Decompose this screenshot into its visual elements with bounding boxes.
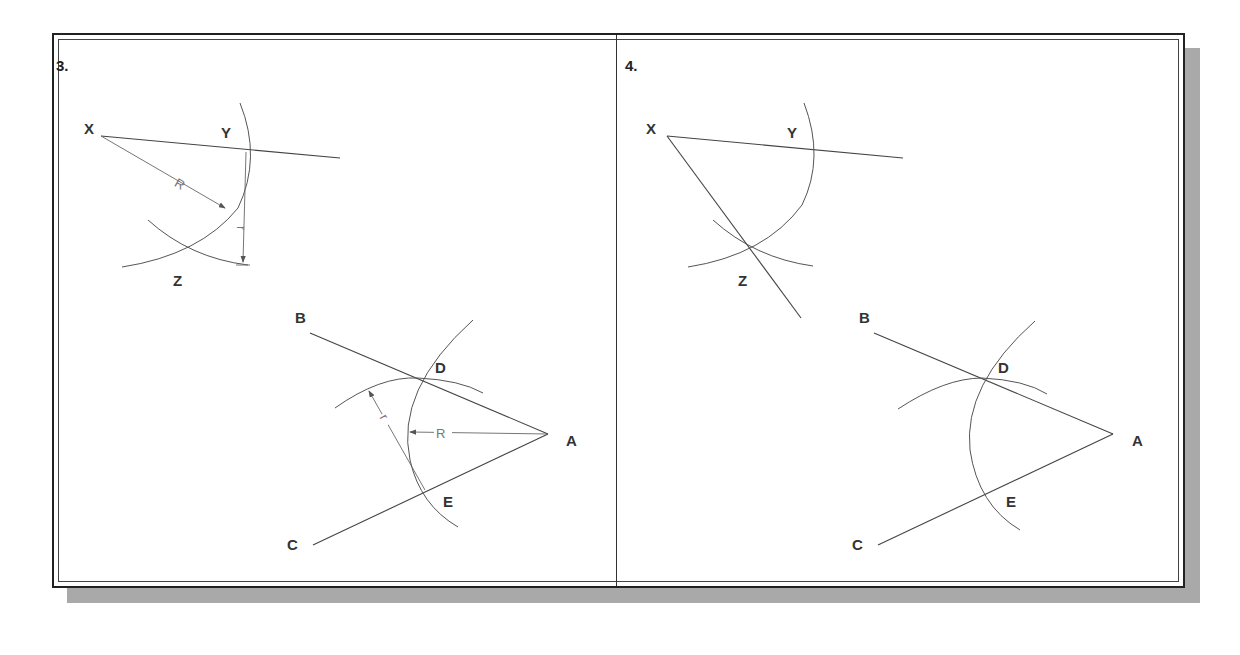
dimension-label-r: R bbox=[172, 175, 188, 193]
arc-radius-r-from-a bbox=[969, 321, 1035, 530]
point-y: Y bbox=[221, 124, 231, 141]
point-e: E bbox=[1006, 493, 1016, 510]
point-y: Y bbox=[787, 124, 797, 141]
dimension-r-arrow bbox=[101, 136, 225, 208]
point-x: X bbox=[84, 120, 94, 137]
line-xy bbox=[667, 136, 903, 158]
arc-radius-small-from-d bbox=[898, 378, 1047, 409]
point-c: C bbox=[287, 536, 298, 553]
point-d: D bbox=[998, 359, 1009, 376]
panel-3: 3. R r X Y Z R r B D A E C bbox=[56, 57, 577, 553]
dimension-small-r-arrow-d bbox=[369, 391, 425, 490]
line-ab bbox=[874, 333, 1113, 434]
dimension-r-arrow-a bbox=[410, 432, 548, 434]
arc-radius-small-from-y bbox=[713, 220, 813, 266]
point-b: B bbox=[859, 309, 870, 326]
panel-number: 3. bbox=[56, 57, 69, 74]
arc-radius-small-from-d bbox=[335, 378, 483, 408]
construction-diagram: 3. R r X Y Z R r B D A E C 4. bbox=[0, 0, 1240, 655]
line-ac bbox=[313, 434, 548, 545]
dimension-label-small-r: r bbox=[234, 226, 249, 231]
line-ac bbox=[878, 434, 1113, 545]
point-z: Z bbox=[173, 272, 182, 289]
arc-radius-small-from-y bbox=[148, 220, 248, 265]
point-a: A bbox=[1132, 432, 1143, 449]
line-ab bbox=[310, 333, 548, 434]
point-d: D bbox=[435, 359, 446, 376]
point-a: A bbox=[566, 432, 577, 449]
point-b: B bbox=[295, 309, 306, 326]
point-z: Z bbox=[738, 272, 747, 289]
dimension-label-r-a: R bbox=[436, 426, 445, 441]
point-x: X bbox=[646, 120, 656, 137]
line-xz bbox=[667, 136, 801, 318]
point-e: E bbox=[443, 493, 453, 510]
panel-4: 4. X Y Z B D A E C bbox=[625, 57, 1143, 553]
point-c: C bbox=[852, 536, 863, 553]
panel-number: 4. bbox=[625, 57, 638, 74]
dimension-small-r-arrow bbox=[243, 152, 246, 262]
